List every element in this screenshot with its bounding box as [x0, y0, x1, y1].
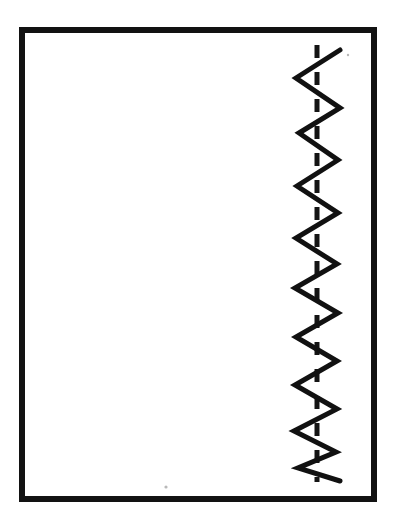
illustration-border — [22, 30, 374, 499]
scan-speck — [347, 54, 349, 56]
stitch-diagram-figure: Zigzag stitch over dashed guideline Zigz… — [0, 0, 399, 525]
scan-speck — [164, 485, 167, 488]
diagram-canvas — [0, 0, 399, 525]
